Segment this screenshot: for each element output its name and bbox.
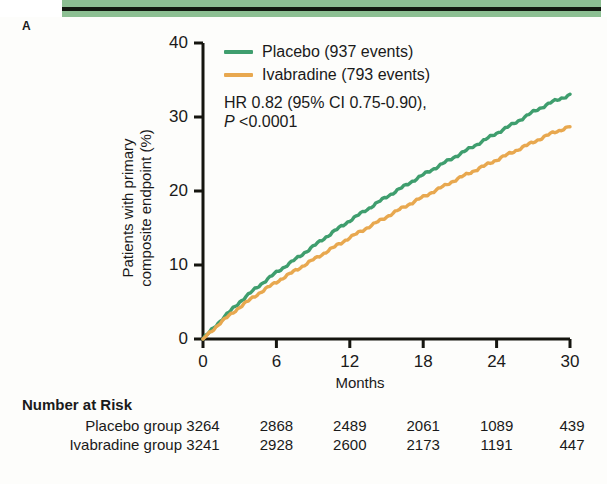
legend-swatch-ivabradine [224,73,253,77]
p-value-line: P <0.0001 [224,112,427,131]
p-value-text: <0.0001 [235,113,298,130]
hazard-ratio-line: HR 0.82 (95% CI 0.75-0.90), [224,93,427,112]
y-axis-title-line1: Patients with primary [119,68,137,348]
risk-value: 439 [545,417,599,434]
table-row: Ivabradine group 3241 2928 2600 2173 119… [0,436,607,455]
risk-value: 2868 [249,417,303,434]
x-tick-label: 18 [403,353,443,370]
x-tick-label: 30 [550,353,590,370]
chart-legend: Placebo (937 events) Ivabradine (793 eve… [224,40,430,86]
y-axis-title-line2: composite endpoint (%) [137,68,155,348]
y-tick-label: 40 [148,34,188,51]
risk-row-label-ivabradine: Ivabradine group [10,436,182,453]
figure-panel: A 010203040 0612182430 Patients with pri… [0,0,607,484]
series-line-ivabradine [203,127,570,339]
risk-value: 1089 [470,417,524,434]
risk-value: 2061 [396,417,450,434]
x-tick-label: 0 [183,353,223,370]
risk-row-label-placebo: Placebo group [10,417,182,434]
table-row: Placebo group 3264 2868 2489 2061 1089 4… [0,417,607,436]
legend-item-placebo: Placebo (937 events) [224,40,430,63]
legend-item-ivabradine: Ivabradine (793 events) [224,63,430,86]
legend-label-ivabradine: Ivabradine (793 events) [262,66,430,84]
risk-value: 447 [545,436,599,453]
x-axis-title: Months [300,374,420,391]
risk-value: 2173 [396,436,450,453]
legend-label-placebo: Placebo (937 events) [262,43,413,61]
number-at-risk-title: Number at Risk [22,396,132,413]
y-axis-title: Patients with primary composite endpoint… [119,68,155,348]
statistics-annotation: HR 0.82 (95% CI 0.75-0.90), P <0.0001 [224,93,427,131]
risk-value: 2489 [323,417,377,434]
legend-swatch-placebo [224,50,253,54]
risk-value: 1191 [470,436,524,453]
x-tick-label: 24 [477,353,517,370]
plot-axes [194,43,570,348]
p-italic: P [224,113,235,130]
risk-value: 2928 [249,436,303,453]
risk-value: 3264 [176,417,230,434]
x-tick-label: 6 [256,353,296,370]
risk-value: 3241 [176,436,230,453]
risk-value: 2600 [323,436,377,453]
x-tick-label: 12 [330,353,370,370]
